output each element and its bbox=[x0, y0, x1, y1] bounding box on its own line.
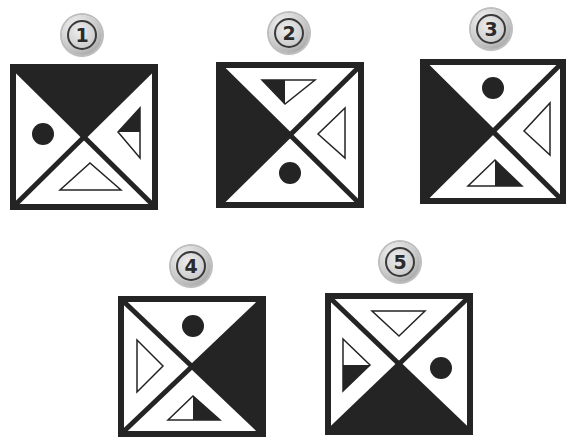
option-badge-1: 1 bbox=[62, 15, 102, 55]
option-badge-2: 2 bbox=[269, 13, 309, 53]
option-badge-3: 3 bbox=[471, 9, 511, 49]
solid-circle-icon bbox=[279, 162, 301, 184]
option-number: 5 bbox=[393, 253, 406, 272]
option-badge-4: 4 bbox=[171, 246, 211, 286]
solid-circle-icon bbox=[182, 315, 204, 337]
option-number: 1 bbox=[75, 26, 88, 45]
option-number: 2 bbox=[282, 24, 295, 43]
option-number: 3 bbox=[484, 20, 497, 39]
option-number: 4 bbox=[184, 257, 197, 276]
badge-ring: 1 bbox=[67, 20, 97, 50]
solid-circle-icon bbox=[32, 123, 54, 145]
puzzle-options: 1 2 bbox=[0, 0, 571, 445]
badge-ring: 3 bbox=[476, 14, 506, 44]
badge-ring: 2 bbox=[274, 18, 304, 48]
solid-circle-icon bbox=[430, 357, 452, 379]
option-badge-5: 5 bbox=[380, 242, 420, 282]
option-square-1 bbox=[10, 64, 158, 210]
option-square-2 bbox=[216, 62, 364, 208]
option-square-5 bbox=[325, 293, 473, 435]
badge-ring: 5 bbox=[385, 247, 415, 277]
option-square-4 bbox=[118, 296, 266, 437]
badge-ring: 4 bbox=[176, 251, 206, 281]
option-square-3 bbox=[420, 59, 566, 204]
solid-circle-icon bbox=[482, 77, 504, 99]
